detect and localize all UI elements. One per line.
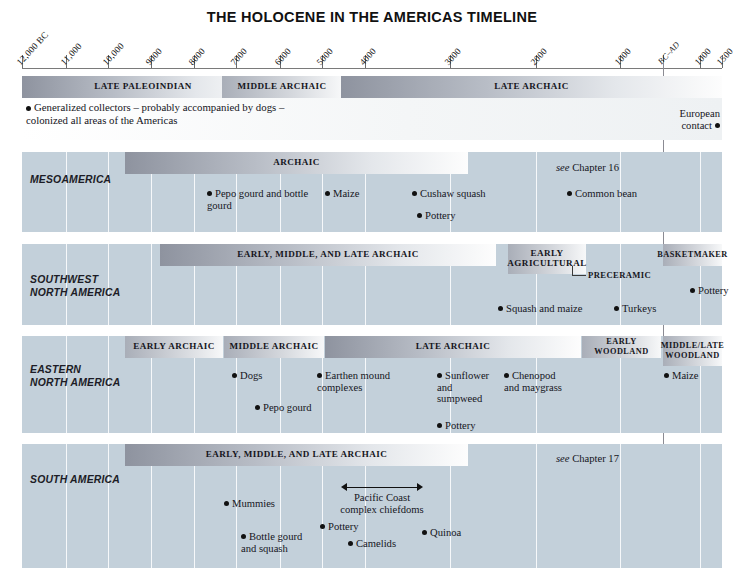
row-label-southwest-north-america: SOUTHWEST NORTH AMERICA <box>30 274 120 299</box>
arrow-head-right-icon <box>417 483 423 491</box>
axis-tick-label: 2000 <box>529 46 549 67</box>
band-ena-early-archaic: EARLY ARCHAIC <box>125 336 223 358</box>
event-sunflower-and-sumpweed: Sunflower and sumpweed <box>437 370 502 405</box>
see-chapter-16: see Chapter 16 <box>556 162 619 173</box>
period-band-middle-archaic: MIDDLE ARCHAIC <box>222 76 342 98</box>
event-pottery-ena: Pottery <box>437 420 507 432</box>
event-pepo-gourd-ena: Pepo gourd <box>255 402 345 414</box>
axis-tick-label: 1500 <box>715 46 735 67</box>
axis-tick-label: 10,000 <box>101 41 126 67</box>
event-label: Pottery <box>698 285 729 296</box>
axis-tick-label: 7000 <box>229 46 249 67</box>
event-label: Pottery <box>445 420 476 431</box>
event-maize-meso: Maize <box>325 188 395 200</box>
band-ena-late-archaic: LATE ARCHAIC <box>325 336 581 358</box>
band-sw-basketmaker: BASKETMAKER <box>663 244 722 266</box>
annotation-pacific-coast-complex-chiefdoms: Pacific Coast complex chiefdoms <box>336 492 428 516</box>
event-label: Pottery <box>425 210 456 221</box>
event-label: Pottery <box>328 521 359 532</box>
timeline-diagram: THE HOLOCENE IN THE AMERICAS TIMELINE 12… <box>0 0 744 580</box>
page-title: THE HOLOCENE IN THE AMERICAS TIMELINE <box>0 9 744 25</box>
axis-tick-label: BC–AD <box>656 40 681 66</box>
preceramic-leader-line <box>572 266 586 276</box>
see-prefix: see <box>556 162 570 173</box>
event-maize-ena: Maize <box>664 370 724 382</box>
band-mesoamerica-archaic: ARCHAIC <box>125 152 468 174</box>
see-chapter-17: see Chapter 17 <box>556 453 619 464</box>
axis-tick-label: 4000 <box>358 46 378 67</box>
row-label-south-america: SOUTH AMERICA <box>30 474 120 487</box>
label-preceramic: PRECERAMIC <box>588 270 651 280</box>
top-scale-note-text: Generalized collectors – probably accomp… <box>26 101 284 126</box>
axis-tick-label: 6000 <box>273 46 293 67</box>
event-dogs: Dogs <box>232 370 292 382</box>
axis-tick-label: 3000 <box>443 46 463 67</box>
event-label: Dogs <box>240 370 262 381</box>
event-pepo-gourd-bottle-gourd: Pepo gourd and bottle gourd <box>207 188 317 211</box>
band-ena-middle-late-woodland: MIDDLE/LATE WOODLAND <box>663 336 722 366</box>
row-label-mesoamerica: MESOAMERICA <box>30 174 111 187</box>
see-chapter-label: Chapter 17 <box>572 453 619 464</box>
event-label: European contact <box>679 108 720 131</box>
axis-tick-label: 5000 <box>315 46 335 67</box>
event-label: Quinoa <box>430 527 461 538</box>
event-bottle-gourd-and-squash: Bottle gourd and squash <box>241 531 321 554</box>
event-camelids: Camelids <box>348 538 428 550</box>
event-label: Sunflower and sumpweed <box>437 370 489 404</box>
event-turkeys: Turkeys <box>614 303 694 315</box>
see-prefix: see <box>556 453 570 464</box>
event-squash-and-maize: Squash and maize <box>498 303 618 315</box>
event-label: Turkeys <box>622 303 656 314</box>
event-quinoa: Quinoa <box>422 527 492 539</box>
event-label: Pepo gourd <box>263 402 312 413</box>
axis-tick-label: 9000 <box>144 46 164 67</box>
event-common-bean: Common bean <box>567 188 677 200</box>
period-band-late-archaic: LATE ARCHAIC <box>341 76 722 98</box>
event-label: Maize <box>672 370 698 381</box>
event-label: Chenopod and maygrass <box>504 370 562 393</box>
event-pottery-meso: Pottery <box>417 210 497 222</box>
band-ena-middle-archaic: MIDDLE ARCHAIC <box>224 336 324 358</box>
event-earthen-mound-complexes: Earthen mound complexes <box>317 370 412 393</box>
top-scale-note: Generalized collectors – probably accomp… <box>26 101 446 126</box>
axis-tick-label: 11,000 <box>59 41 84 67</box>
event-label: Maize <box>333 188 359 199</box>
event-label: Common bean <box>575 188 637 199</box>
event-pottery-sa: Pottery <box>320 521 390 533</box>
event-european-contact: European contact <box>610 108 720 131</box>
band-sw-early-middle-late-archaic: EARLY, MIDDLE, AND LATE ARCHAIC <box>160 244 496 266</box>
axis-tick-label: 1000 <box>693 46 713 67</box>
event-label: Mummies <box>232 498 275 509</box>
event-label: Squash and maize <box>506 303 583 314</box>
event-label: Earthen mound complexes <box>317 370 390 393</box>
axis-tick-label: 1000 <box>613 46 633 67</box>
event-mummies: Mummies <box>224 498 304 510</box>
axis-tick-label: 8000 <box>187 46 207 67</box>
event-label: Pepo gourd and bottle gourd <box>207 188 308 211</box>
event-pottery-sw: Pottery <box>690 285 744 297</box>
event-label: Camelids <box>356 538 396 549</box>
band-sa-early-middle-late-archaic: EARLY, MIDDLE, AND LATE ARCHAIC <box>125 444 468 466</box>
axis-tick-label: 12,000 BC <box>15 30 51 67</box>
row-label-eastern-north-america: EASTERN NORTH AMERICA <box>30 364 120 389</box>
see-chapter-label: Chapter 16 <box>572 162 619 173</box>
event-label: Cushaw squash <box>420 188 486 199</box>
axis-line <box>22 68 722 69</box>
event-chenopod-and-maygrass: Chenopod and maygrass <box>504 370 586 393</box>
event-label: Bottle gourd and squash <box>241 531 302 554</box>
pacific-coast-range-arrow <box>341 483 423 492</box>
event-cushaw-squash: Cushaw squash <box>412 188 512 200</box>
arrow-head-left-icon <box>341 483 347 491</box>
band-ena-early-woodland: EARLY WOODLAND <box>582 336 661 358</box>
